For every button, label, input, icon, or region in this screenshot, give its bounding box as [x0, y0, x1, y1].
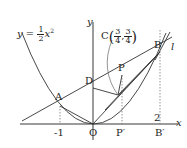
y-axis-label: y	[87, 17, 93, 27]
c-x-fraction: 34	[114, 28, 121, 45]
point-d-label: D	[85, 76, 93, 86]
point-b-prime-label: B′	[155, 128, 165, 138]
point-c-label: C(34,34)	[101, 28, 137, 45]
curve-label: y = 12x2	[17, 26, 54, 43]
point-b-label: B	[154, 40, 161, 50]
point-a-label: A	[55, 92, 62, 102]
segment-rb	[105, 52, 160, 110]
c-y-fraction: 34	[124, 28, 131, 45]
origin-label: O	[89, 128, 97, 138]
c-x-den: 4	[114, 37, 121, 45]
tick-two: 2	[154, 113, 160, 123]
diagram-canvas	[0, 0, 187, 148]
x-axis-label: x	[176, 118, 182, 128]
point-p-prime-label: P′	[116, 128, 125, 138]
point-p-label: P	[118, 63, 125, 73]
arc	[107, 40, 118, 95]
c-y-den: 4	[124, 37, 131, 45]
line-l-label: l	[171, 42, 174, 52]
parabola-curve	[22, 33, 166, 124]
tick-minus-one: -1	[54, 128, 64, 138]
point-c-name: C	[101, 30, 109, 41]
segment-ao	[60, 106, 93, 124]
curve-prefix: y =	[17, 28, 37, 39]
line-l	[22, 37, 172, 121]
curve-exp: 2	[50, 27, 54, 34]
